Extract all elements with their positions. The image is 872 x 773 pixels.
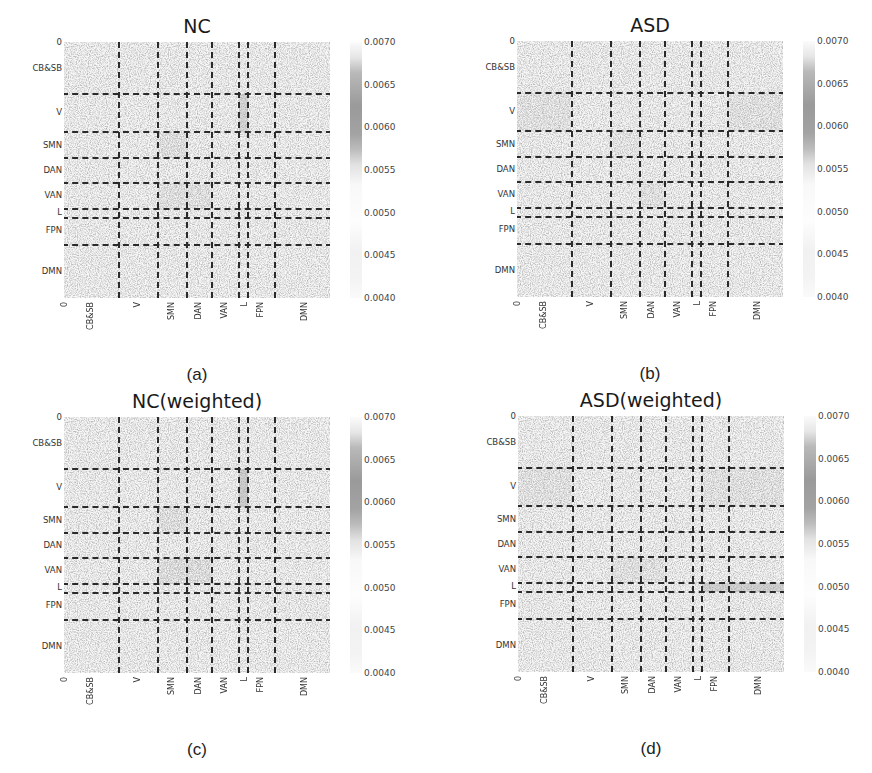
boundary-line xyxy=(64,93,330,95)
colorbar-tick: 0.0065 xyxy=(364,80,396,90)
boundary-line xyxy=(64,506,330,508)
boundary-line xyxy=(727,41,729,297)
colorbar-tick: 0.0070 xyxy=(364,412,396,422)
chart-title: ASD xyxy=(517,13,783,37)
boundary-line xyxy=(728,416,730,672)
y-tick-label: SMN xyxy=(497,514,516,524)
y-tick-label: DAN xyxy=(497,539,516,549)
chart-title: NC(weighted) xyxy=(64,389,330,413)
boundary-line xyxy=(700,41,702,297)
y-tick-label: CB&SB xyxy=(32,438,62,448)
x-tick-label: 0 xyxy=(513,301,522,306)
heatmap xyxy=(517,41,783,297)
x-tick-label: SMN xyxy=(167,677,176,695)
y-tick-label: SMN xyxy=(496,139,515,149)
boundary-line xyxy=(610,41,612,297)
panel-asd-weighted: ASD(weighted) 0 CB&SB V SMN DAN VAN L FP… xyxy=(454,374,872,749)
x-tick-label: DMN xyxy=(753,301,762,320)
y-tick-label: VAN xyxy=(45,565,62,575)
y-tick-label: DMN xyxy=(42,266,62,276)
boundary-line xyxy=(247,417,249,673)
y-tick-label: 0 xyxy=(57,37,62,47)
boundary-line xyxy=(640,416,642,672)
colorbar-tick: 0.0040 xyxy=(364,293,396,303)
boundary-line xyxy=(664,41,666,297)
colorbar-tick: 0.0055 xyxy=(364,540,396,550)
boundary-line xyxy=(518,531,784,533)
colorbar-tick: 0.0040 xyxy=(817,292,849,302)
heatmap-cells xyxy=(64,42,330,298)
boundary-line xyxy=(186,42,188,298)
chart-title: ASD(weighted) xyxy=(518,388,784,412)
colorbar-tick: 0.0045 xyxy=(364,250,396,260)
boundary-line xyxy=(571,41,573,297)
y-tick-label: FPN xyxy=(46,225,62,235)
boundary-line xyxy=(238,42,240,298)
x-tick-label: FPN xyxy=(710,676,719,691)
y-tick-label: 0 xyxy=(57,412,62,422)
x-tick-label: VAN xyxy=(220,677,229,693)
boundary-line xyxy=(518,556,784,558)
x-tick-label: 0 xyxy=(514,676,523,681)
boundary-line xyxy=(517,207,783,209)
boundary-line xyxy=(64,532,330,534)
colorbar-tick: 0.0055 xyxy=(818,539,850,549)
boundary-line xyxy=(517,181,783,183)
boundary-line xyxy=(274,42,276,298)
x-tick-label: L xyxy=(693,301,702,305)
colorbar-tick: 0.0070 xyxy=(818,411,850,421)
panel-nc-weighted: NC(weighted) 0 CB&SB V SMN DAN VAN L FPN… xyxy=(0,375,436,750)
heatmap-cells xyxy=(518,416,784,672)
x-tick-label: 0 xyxy=(60,677,69,682)
colorbar-tick: 0.0065 xyxy=(364,455,396,465)
boundary-line xyxy=(64,131,330,133)
boundary-line xyxy=(517,92,783,94)
x-tick-label: FPN xyxy=(256,302,265,317)
x-tick-label: VAN xyxy=(674,676,683,692)
y-tick-label: DMN xyxy=(42,641,62,651)
colorbar-tick: 0.0050 xyxy=(817,207,849,217)
boundary-line xyxy=(692,416,694,672)
y-tick-label: V xyxy=(56,482,62,492)
boundary-line xyxy=(157,417,159,673)
x-tick-label: SMN xyxy=(167,302,176,320)
boundary-line xyxy=(238,417,240,673)
y-tick-label: DMN xyxy=(495,265,515,275)
x-tick-label: DAN xyxy=(194,302,203,319)
boundary-line xyxy=(517,216,783,218)
colorbar xyxy=(350,42,362,298)
x-tick-label: SMN xyxy=(620,301,629,319)
colorbar-tick: 0.0055 xyxy=(817,164,849,174)
y-tick-label: V xyxy=(56,107,62,117)
x-tick-label: DMN xyxy=(300,302,309,321)
colorbar-tick: 0.0050 xyxy=(818,582,850,592)
boundary-line xyxy=(157,42,159,298)
y-tick-label: VAN xyxy=(499,564,516,574)
x-tick-label: VAN xyxy=(673,301,682,317)
x-tick-label: VAN xyxy=(220,302,229,318)
boundary-line xyxy=(518,582,784,584)
x-tick-label: DMN xyxy=(300,677,309,696)
boundary-line xyxy=(118,417,120,673)
boundary-line xyxy=(691,41,693,297)
boundary-line xyxy=(64,208,330,210)
colorbar-tick: 0.0060 xyxy=(818,496,850,506)
x-tick-label: CB&SB xyxy=(86,677,95,705)
y-tick-label: VAN xyxy=(45,190,62,200)
y-tick-label: FPN xyxy=(46,600,62,610)
panel-asd: ASD 0 CB&SB V SMN DAN VAN L FPN DMN 0 CB… xyxy=(453,0,872,374)
boundary-line xyxy=(186,417,188,673)
y-tick-label: DAN xyxy=(43,540,62,550)
x-tick-label: CB&SB xyxy=(540,676,549,704)
colorbar-tick: 0.0040 xyxy=(818,667,850,677)
x-tick-label: CB&SB xyxy=(539,301,548,329)
boundary-line xyxy=(64,217,330,219)
boundary-line xyxy=(64,583,330,585)
colorbar-tick: 0.0065 xyxy=(817,79,849,89)
boundary-line xyxy=(64,557,330,559)
boundary-line xyxy=(274,417,276,673)
x-tick-label: FPN xyxy=(709,301,718,316)
colorbar-tick: 0.0055 xyxy=(364,165,396,175)
boundary-line xyxy=(118,42,120,298)
y-tick-label: SMN xyxy=(43,140,62,150)
